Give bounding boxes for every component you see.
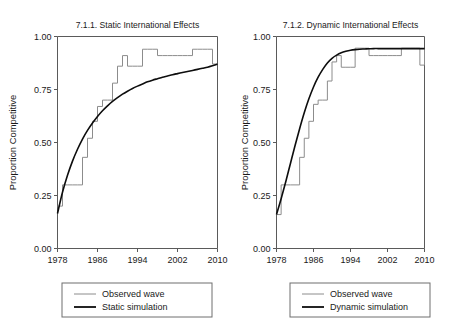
legend-label-right-1: Dynamic simulation — [330, 302, 408, 312]
ytick-label-right-4: 1.00 — [253, 32, 271, 42]
ytick-label-right-2: 0.50 — [253, 138, 271, 148]
ytick-label-left-1: 0.25 — [34, 191, 52, 201]
xtick-label-left-3: 2002 — [167, 255, 187, 265]
legend-label-left-1: Static simulation — [102, 302, 168, 312]
series-right-dynamic-simulation — [277, 49, 425, 215]
series-left-observed-wave — [58, 49, 218, 206]
ytick-label-left-0: 0.00 — [34, 244, 52, 254]
legend-left: Observed waveStatic simulation — [62, 283, 212, 317]
chart-panel-left: 7.1.1. Static International Effects0.000… — [7, 20, 228, 317]
ytick-label-left-4: 1.00 — [34, 32, 52, 42]
ylabel-right: Proportion Competitive — [239, 95, 250, 190]
chart-panel-right: 7.1.2. Dynamic International Effects0.00… — [239, 20, 435, 317]
ylabel-left: Proportion Competitive — [7, 95, 18, 190]
ytick-label-left-2: 0.50 — [34, 138, 52, 148]
xtick-label-right-0: 1978 — [266, 255, 286, 265]
panel-title-left: 7.1.1. Static International Effects — [76, 20, 200, 30]
ytick-label-right-1: 0.25 — [253, 191, 271, 201]
legend-label-right-0: Observed wave — [330, 289, 393, 299]
ytick-label-left-3: 0.75 — [34, 85, 52, 95]
xtick-label-right-1: 1986 — [303, 255, 323, 265]
xtick-label-left-0: 1978 — [47, 255, 67, 265]
panel-title-right: 7.1.2. Dynamic International Effects — [283, 20, 419, 30]
figure-container: 7.1.1. Static International Effects0.000… — [0, 0, 450, 327]
xtick-label-right-2: 1994 — [340, 255, 360, 265]
ytick-label-right-3: 0.75 — [253, 85, 271, 95]
legend-right: Observed waveDynamic simulation — [290, 283, 430, 317]
xtick-label-left-1: 1986 — [87, 255, 107, 265]
legend-label-left-0: Observed wave — [102, 289, 165, 299]
series-left-static-simulation — [58, 64, 218, 213]
dual-panel-line-chart: 7.1.1. Static International Effects0.000… — [0, 0, 450, 327]
xtick-label-right-3: 2002 — [377, 255, 397, 265]
ytick-label-right-0: 0.00 — [253, 244, 271, 254]
xtick-label-left-2: 1994 — [127, 255, 147, 265]
xtick-label-right-4: 2010 — [414, 255, 434, 265]
xtick-label-left-4: 2010 — [207, 255, 227, 265]
